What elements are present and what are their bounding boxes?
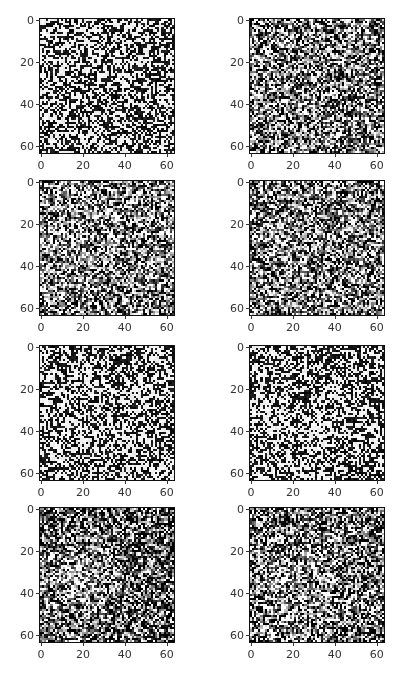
noise-image [250, 508, 384, 642]
image-panel-r2-c0: 00202040406060 [40, 346, 174, 480]
x-tick-label: 60 [370, 487, 384, 498]
y-tick-label: 0 [237, 342, 244, 353]
x-tick-mark [293, 480, 294, 484]
y-tick-mark [36, 389, 40, 390]
y-tick-label: 40 [230, 260, 244, 271]
y-tick-label: 20 [230, 56, 244, 67]
x-tick-mark [167, 480, 168, 484]
y-tick-mark [36, 347, 40, 348]
y-tick-mark [246, 146, 250, 147]
y-tick-mark [246, 266, 250, 267]
x-tick-label: 20 [286, 322, 300, 333]
y-tick-mark [246, 593, 250, 594]
y-tick-label: 20 [20, 383, 34, 394]
x-tick-label: 40 [118, 649, 132, 660]
x-tick-label: 40 [328, 160, 342, 171]
x-tick-mark [125, 642, 126, 646]
x-tick-label: 0 [38, 487, 45, 498]
y-tick-label: 40 [20, 260, 34, 271]
y-tick-mark [36, 308, 40, 309]
y-tick-label: 60 [20, 140, 34, 151]
y-tick-label: 60 [230, 467, 244, 478]
x-tick-mark [377, 153, 378, 157]
y-tick-mark [36, 104, 40, 105]
x-tick-label: 60 [160, 160, 174, 171]
x-tick-label: 40 [118, 487, 132, 498]
y-tick-label: 40 [230, 587, 244, 598]
y-tick-label: 60 [230, 302, 244, 313]
y-tick-mark [246, 389, 250, 390]
x-tick-label: 0 [38, 160, 45, 171]
y-tick-label: 0 [27, 504, 34, 515]
x-tick-mark [293, 153, 294, 157]
x-tick-mark [167, 315, 168, 319]
x-tick-label: 0 [38, 322, 45, 333]
x-tick-label: 0 [248, 649, 255, 660]
y-tick-label: 40 [20, 587, 34, 598]
x-tick-mark [83, 315, 84, 319]
image-panel-r3-c1: 00202040406060 [250, 508, 384, 642]
x-tick-label: 20 [76, 160, 90, 171]
x-tick-mark [335, 315, 336, 319]
image-panel-r0-c1: 00202040406060 [250, 19, 384, 153]
x-tick-mark [167, 642, 168, 646]
x-tick-mark [251, 642, 252, 646]
x-tick-mark [83, 153, 84, 157]
image-panel-r1-c0: 00202040406060 [40, 181, 174, 315]
image-panel-r3-c0: 00202040406060 [40, 508, 174, 642]
y-tick-mark [246, 20, 250, 21]
x-tick-mark [125, 315, 126, 319]
y-tick-mark [246, 473, 250, 474]
y-tick-label: 40 [20, 425, 34, 436]
y-tick-mark [36, 551, 40, 552]
y-tick-mark [246, 509, 250, 510]
y-tick-label: 60 [230, 629, 244, 640]
y-tick-mark [36, 593, 40, 594]
x-tick-mark [377, 315, 378, 319]
x-tick-mark [377, 480, 378, 484]
x-tick-label: 60 [160, 322, 174, 333]
y-tick-label: 40 [20, 98, 34, 109]
y-tick-mark [36, 431, 40, 432]
noise-image [40, 346, 174, 480]
noise-image [250, 181, 384, 315]
x-tick-label: 60 [160, 487, 174, 498]
x-tick-mark [335, 153, 336, 157]
y-tick-mark [246, 347, 250, 348]
y-tick-mark [36, 473, 40, 474]
x-tick-mark [335, 480, 336, 484]
y-tick-label: 40 [230, 98, 244, 109]
x-tick-label: 40 [118, 322, 132, 333]
y-tick-label: 20 [230, 383, 244, 394]
x-tick-label: 20 [286, 160, 300, 171]
y-tick-mark [36, 146, 40, 147]
x-tick-label: 20 [76, 649, 90, 660]
x-tick-mark [41, 153, 42, 157]
x-tick-label: 40 [328, 322, 342, 333]
y-tick-mark [246, 308, 250, 309]
x-tick-label: 60 [370, 322, 384, 333]
y-tick-mark [36, 20, 40, 21]
y-tick-label: 60 [20, 629, 34, 640]
y-tick-label: 0 [237, 15, 244, 26]
x-tick-mark [41, 315, 42, 319]
x-tick-mark [251, 480, 252, 484]
x-tick-mark [83, 480, 84, 484]
y-tick-mark [36, 62, 40, 63]
x-tick-mark [377, 642, 378, 646]
y-tick-label: 0 [27, 342, 34, 353]
y-tick-label: 0 [237, 504, 244, 515]
y-tick-mark [36, 635, 40, 636]
x-tick-label: 20 [76, 322, 90, 333]
x-tick-label: 0 [248, 160, 255, 171]
y-tick-mark [36, 224, 40, 225]
y-tick-mark [246, 224, 250, 225]
y-tick-label: 60 [20, 467, 34, 478]
x-tick-mark [83, 642, 84, 646]
y-tick-label: 60 [20, 302, 34, 313]
x-tick-label: 40 [118, 160, 132, 171]
y-tick-label: 20 [230, 545, 244, 556]
x-tick-label: 60 [370, 649, 384, 660]
image-panel-r0-c0: 00202040406060 [40, 19, 174, 153]
y-tick-label: 20 [20, 545, 34, 556]
